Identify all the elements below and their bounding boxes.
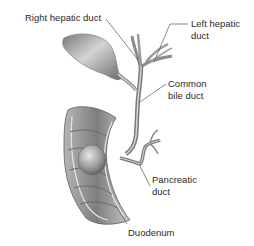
leader-common-bile: [140, 84, 166, 102]
label-text-line1: Common: [168, 78, 207, 90]
duodenum: [64, 107, 130, 225]
label-text-line1: Left hepatic: [191, 18, 240, 30]
biliary-anatomy-diagram: Right hepatic duct Left hepatic duct Com…: [0, 0, 254, 246]
label-duodenum: Duodenum: [128, 227, 174, 239]
duct-system: [120, 34, 172, 164]
label-pancreatic-duct: Pancreatic duct: [152, 174, 197, 198]
label-text-line2: bile duct: [168, 90, 207, 102]
label-text: Duodenum: [128, 227, 174, 238]
label-text-line2: duct: [152, 186, 197, 198]
label-text-line2: duct: [191, 30, 240, 42]
label-left-hepatic-duct: Left hepatic duct: [191, 18, 240, 42]
leader-pancreatic: [140, 166, 150, 186]
label-common-bile-duct: Common bile duct: [168, 78, 207, 102]
label-text: Right hepatic duct: [25, 12, 101, 23]
label-text-line1: Pancreatic: [152, 174, 197, 186]
gallbladder: [63, 34, 136, 90]
label-right-hepatic-duct: Right hepatic duct: [25, 12, 101, 24]
